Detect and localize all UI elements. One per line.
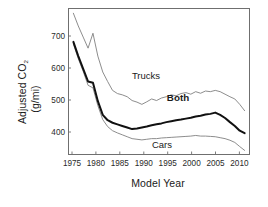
x-tick-label: 1985 [111,159,130,168]
series-label-cars: Cars [152,139,172,150]
x-tick-label: 2005 [206,159,225,168]
x-axis-title: Model Year [131,177,185,189]
y-axis-title-subscript: 2 [22,59,29,63]
x-tick-label: 1975 [63,159,82,168]
series-label-trucks: Trucks [132,70,160,81]
series-label-both: Both [167,92,189,103]
x-tick-label: 2010 [230,159,249,168]
svg-text:Adjusted CO2: Adjusted CO2 [16,59,29,124]
x-tick-label: 1980 [87,159,106,168]
plot-frame [69,9,250,155]
series-line-both [73,42,244,133]
x-tick-label: 1995 [159,159,178,168]
y-tick-label: 400 [51,128,65,137]
y-tick-label: 500 [51,96,65,105]
x-tick-labels: 1975 1980 1985 1990 1995 2000 2005 2010 [63,159,249,168]
y-axis-title: Adjusted CO2 (g/mi) [16,59,41,124]
x-tick-label: 2000 [182,159,201,168]
y-axis-title-units: (g/mi) [29,85,41,112]
series-line-trucks [73,13,244,110]
y-tick-labels: 700 600 500 400 [51,32,65,137]
x-tick-label: 1990 [135,159,154,168]
y-tick-label: 700 [51,32,65,41]
y-tick-label: 600 [51,64,65,73]
co2-line-chart: Adjusted CO2 (g/mi) 700 600 500 400 Truc… [0,0,268,207]
y-axis-title-main: Adjusted CO [16,63,28,124]
